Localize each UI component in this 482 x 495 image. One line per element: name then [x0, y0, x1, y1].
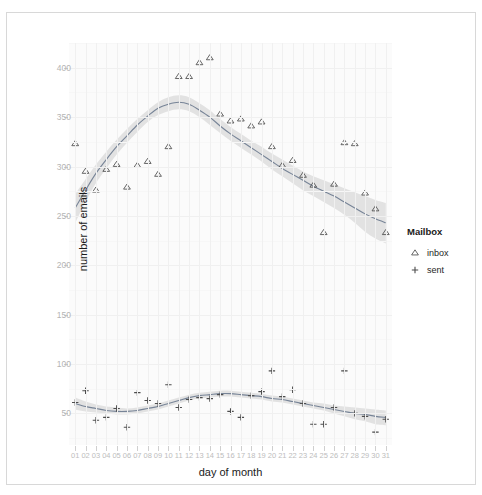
- x-axis-title: day of month: [69, 466, 392, 478]
- gridline-vertical-major: [106, 43, 107, 445]
- gridline-vertical-major: [96, 43, 97, 445]
- gridline-vertical-major: [117, 43, 118, 445]
- gridline-vertical-major: [282, 43, 283, 445]
- y-axis-tick-label: 150: [31, 311, 71, 320]
- gridline-vertical-major: [262, 43, 263, 445]
- gridline-vertical-major: [137, 43, 138, 445]
- legend: Mailbox inboxsent: [407, 226, 449, 278]
- triangle-marker-icon: [407, 245, 423, 261]
- legend-items: inboxsent: [407, 244, 449, 278]
- y-axis-tick-label: 100: [31, 360, 71, 369]
- figure-frame: 50100150200250300350400 number of emails…: [6, 12, 476, 485]
- gridline-vertical-major: [334, 43, 335, 445]
- gridline-vertical-major: [127, 43, 128, 445]
- gridline-vertical-major: [241, 43, 242, 445]
- gridline-vertical-major: [272, 43, 273, 445]
- y-axis-tick-label: 350: [31, 113, 71, 122]
- gridline-vertical-major: [189, 43, 190, 445]
- y-axis-tick-label: 250: [31, 212, 71, 221]
- gridline-vertical-major: [168, 43, 169, 445]
- x-axis-tick-labels: 0102030405060708091011121314151617181920…: [69, 452, 392, 464]
- legend-item-label: inbox: [427, 248, 449, 258]
- y-axis-title: number of emails: [77, 149, 89, 309]
- y-axis-tick-label: 200: [31, 261, 71, 270]
- legend-item-inbox[interactable]: inbox: [407, 244, 449, 261]
- gridline-vertical-major: [158, 43, 159, 445]
- gridline-vertical-major: [375, 43, 376, 445]
- gridline-vertical-major: [220, 43, 221, 445]
- gridline-vertical-major: [386, 43, 387, 445]
- y-axis-tick-label: 400: [31, 64, 71, 73]
- legend-item-label: sent: [427, 265, 444, 275]
- gridline-vertical-major: [313, 43, 314, 445]
- y-axis-tick-label: 50: [31, 409, 71, 418]
- gridline-vertical-major: [324, 43, 325, 445]
- gridline-vertical-major: [303, 43, 304, 445]
- y-axis-tick-label: 300: [31, 163, 71, 172]
- gridline-vertical-major: [148, 43, 149, 445]
- plus-marker-icon: [407, 262, 423, 278]
- gridline-vertical-major: [199, 43, 200, 445]
- plot-panel: [69, 43, 392, 445]
- gridline-vertical-major: [293, 43, 294, 445]
- gridline-vertical-major: [355, 43, 356, 445]
- gridline-vertical-major: [210, 43, 211, 445]
- legend-item-sent[interactable]: sent: [407, 261, 449, 278]
- gridline-vertical-major: [344, 43, 345, 445]
- x-axis-tick-label: 31: [379, 452, 393, 460]
- gridline-vertical-major: [231, 43, 232, 445]
- legend-title: Mailbox: [407, 226, 449, 237]
- gridline-vertical-major: [251, 43, 252, 445]
- gridline-vertical-major: [179, 43, 180, 445]
- gridline-vertical-major: [365, 43, 366, 445]
